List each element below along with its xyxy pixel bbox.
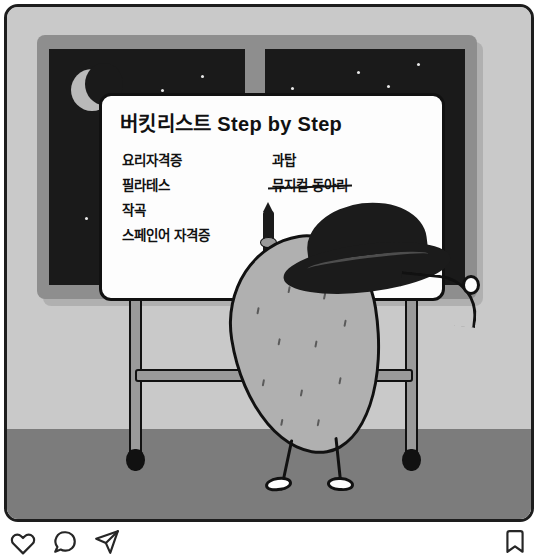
potato-speck (287, 286, 290, 293)
potato-speck (314, 340, 317, 347)
share-button[interactable] (94, 529, 120, 555)
bucket-list-left-column: 요리자격증 필라테스 작곡 스페인어 자격증 (122, 148, 210, 248)
comment-button[interactable] (52, 529, 78, 555)
post-action-bar (0, 525, 538, 553)
potato-speck (256, 307, 259, 314)
like-button[interactable] (10, 529, 36, 555)
list-item: 필라테스 (122, 173, 210, 198)
potato-speck (300, 389, 303, 396)
list-item: 스페인어 자격증 (122, 223, 210, 248)
potato-speck (317, 419, 320, 426)
star (161, 89, 164, 92)
potato-speck (278, 338, 281, 345)
star (85, 217, 88, 220)
star (417, 63, 420, 66)
easel-foot-right (402, 449, 421, 471)
post-image[interactable]: 버킷리스트 Step by Step 요리자격증 필라테스 작곡 스페인어 자격… (4, 4, 534, 522)
list-item: 요리자격증 (122, 148, 210, 173)
potato-speck (262, 379, 265, 386)
potato-speck (280, 419, 283, 426)
character-hand (462, 275, 480, 295)
star (201, 75, 204, 78)
list-item: 작곡 (122, 198, 210, 223)
list-item: 과탑 (272, 148, 348, 173)
star (357, 71, 360, 74)
bucket-list-right-column: 과탑 뮤지컬 동아리 (272, 148, 348, 198)
star (291, 87, 294, 90)
whiteboard-title: 버킷리스트 Step by Step (120, 108, 342, 137)
room-floor (7, 429, 531, 519)
save-button[interactable] (502, 529, 528, 555)
potato-speck (338, 377, 341, 384)
potato-speck (343, 320, 346, 327)
star (387, 85, 390, 88)
list-item-completed: 뮤지컬 동아리 (272, 173, 348, 198)
easel-foot-left (126, 449, 145, 471)
